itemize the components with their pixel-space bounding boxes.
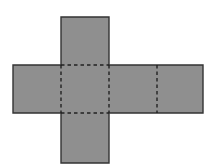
cube-net-diagram [0,0,215,166]
face-left [13,65,61,113]
face-top [61,17,109,65]
face-far-right [157,65,203,113]
face-center [61,65,109,113]
face-bottom [61,113,109,163]
cube-faces [13,17,203,163]
face-right [109,65,157,113]
